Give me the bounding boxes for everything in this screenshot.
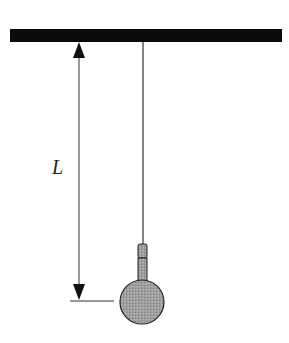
arrowhead-down-icon — [73, 284, 85, 300]
ceiling-bar — [10, 29, 282, 42]
arrowhead-up-icon — [73, 42, 85, 58]
pendulum-diagram — [0, 0, 289, 343]
length-label: L — [52, 156, 63, 179]
length-dimension — [70, 42, 114, 301]
bob-connector — [138, 244, 147, 282]
pendulum-bob — [120, 280, 164, 324]
